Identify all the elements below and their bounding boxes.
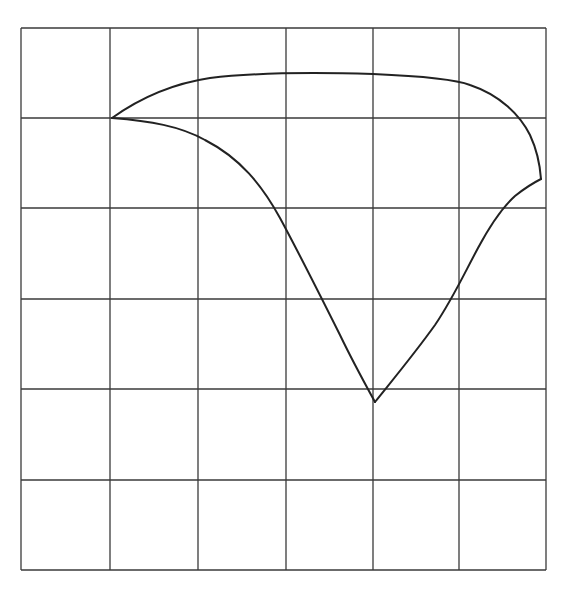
lower-right-arc bbox=[375, 179, 541, 402]
grid bbox=[21, 28, 546, 570]
upper-arc bbox=[112, 73, 541, 179]
closed-curve bbox=[112, 73, 541, 402]
diagram-canvas bbox=[0, 0, 564, 595]
lower-left-arc bbox=[112, 118, 375, 402]
